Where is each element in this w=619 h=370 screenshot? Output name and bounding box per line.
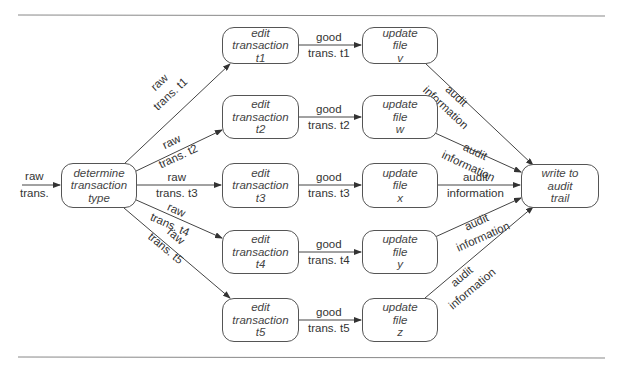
- edit-transaction-t2-node[interactable]: edit transaction t2: [222, 95, 299, 139]
- node-text: update: [382, 98, 417, 111]
- node-text: x: [397, 192, 403, 205]
- node-text: transaction: [232, 246, 288, 259]
- node-text: y: [397, 258, 403, 271]
- node-text: t1: [256, 52, 266, 65]
- bottom-rule: [18, 357, 605, 358]
- label-line: audit: [447, 171, 504, 183]
- node-text: determine: [73, 167, 124, 180]
- label-line: trans. t2: [308, 119, 350, 131]
- node-text: t2: [256, 123, 266, 136]
- label-line: trans. t5: [308, 322, 350, 334]
- good-trans-label: good trans. t4: [308, 238, 350, 266]
- good-trans-label: good trans. t1: [308, 31, 350, 59]
- node-text: update: [382, 167, 417, 180]
- node-text: audit: [548, 180, 573, 193]
- update-file-w-node[interactable]: update file w: [362, 95, 438, 139]
- node-text: t4: [256, 258, 266, 271]
- node-text: edit: [251, 167, 270, 180]
- raw-trans-label: raw trans. t3: [156, 171, 198, 199]
- input-label-line2: trans.: [20, 187, 49, 199]
- label-line: raw: [156, 171, 198, 183]
- node-text: write to: [541, 167, 578, 180]
- node-text: file: [393, 314, 408, 327]
- node-text: update: [382, 301, 417, 314]
- good-trans-label: good trans. t5: [308, 306, 350, 334]
- node-text: type: [88, 192, 110, 205]
- node-text: edit: [251, 98, 270, 111]
- node-text: transaction: [232, 314, 288, 327]
- label-line: trans. t1: [308, 47, 350, 59]
- input-label: raw trans.: [20, 170, 49, 199]
- node-text: edit: [251, 27, 270, 40]
- node-text: transaction: [71, 179, 127, 192]
- node-text: t5: [256, 326, 266, 339]
- node-text: update: [382, 233, 417, 246]
- node-text: t3: [256, 192, 266, 205]
- node-text: file: [393, 39, 408, 52]
- edit-transaction-t5-node[interactable]: edit transaction t5: [222, 298, 299, 342]
- top-rule: [18, 15, 605, 16]
- audit-info-label: audit information: [447, 171, 504, 199]
- label-line: good: [308, 171, 350, 183]
- node-text: edit: [251, 301, 270, 314]
- edit-transaction-t4-node[interactable]: edit transaction t4: [222, 230, 299, 274]
- update-file-v-node[interactable]: update file v: [362, 27, 438, 64]
- node-text: file: [393, 111, 408, 124]
- node-text: w: [396, 123, 404, 136]
- label-line: trans. t4: [308, 254, 350, 266]
- node-text: v: [397, 52, 403, 65]
- node-text: transaction: [232, 179, 288, 192]
- node-text: edit: [251, 233, 270, 246]
- node-text: file: [393, 246, 408, 259]
- input-label-line1: raw: [20, 170, 49, 182]
- node-text: trail: [551, 192, 570, 205]
- edit-transaction-t3-node[interactable]: edit transaction t3: [222, 163, 299, 208]
- write-audit-trail-node[interactable]: write to audit trail: [521, 164, 599, 208]
- update-file-z-node[interactable]: update file z: [362, 298, 438, 342]
- node-text: z: [397, 326, 403, 339]
- label-line: trans. t3: [308, 187, 350, 199]
- node-text: transaction: [232, 111, 288, 124]
- node-text: file: [393, 179, 408, 192]
- label-line: good: [308, 238, 350, 250]
- label-line: good: [308, 103, 350, 115]
- good-trans-label: good trans. t3: [308, 171, 350, 199]
- node-text: update: [382, 27, 417, 40]
- good-trans-label: good trans. t2: [308, 103, 350, 131]
- node-text: transaction: [232, 39, 288, 52]
- edit-transaction-t1-node[interactable]: edit transaction t1: [222, 27, 299, 64]
- label-line: good: [308, 31, 350, 43]
- update-file-y-node[interactable]: update file y: [362, 230, 438, 274]
- label-line: good: [308, 306, 350, 318]
- label-line: information: [447, 187, 504, 199]
- update-file-x-node[interactable]: update file x: [362, 163, 438, 208]
- determine-transaction-type-node[interactable]: determine transaction type: [61, 163, 137, 208]
